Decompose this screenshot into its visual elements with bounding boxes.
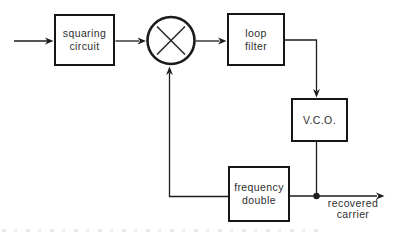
loop-filter-block: loop filter [227, 13, 285, 66]
vco-label: V.C.O. [303, 114, 336, 127]
squaring-circuit-label: squaring circuit [63, 27, 106, 53]
recovered-carrier-label: recovered carrier [322, 198, 384, 220]
frequency-doubler-block: frequency double [228, 166, 290, 222]
frequency-doubler-label: frequency double [234, 181, 284, 207]
vco-block: V.C.O. [291, 98, 348, 142]
squaring-circuit-block: squaring circuit [54, 14, 115, 66]
loop-filter-label: loop filter [245, 27, 267, 53]
cropped-caption-artifact [2, 229, 320, 232]
feedback-line [170, 73, 229, 197]
loopfilter-to-vco-line [285, 40, 317, 91]
block-diagram: squaring circuit loop filter V.C.O. freq… [0, 0, 400, 235]
multiplier-icon [148, 17, 195, 64]
junction-dot [313, 193, 319, 199]
